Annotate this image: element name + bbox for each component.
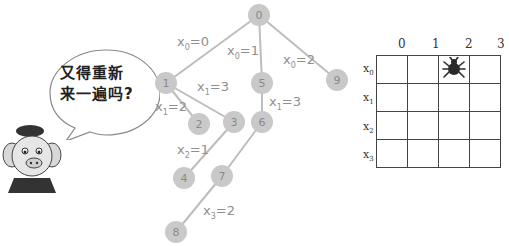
board-row: [377, 112, 501, 140]
svg-text:6: 6: [259, 116, 266, 129]
row-header: x2: [363, 120, 374, 135]
column-header: 0: [398, 37, 406, 51]
chess-board: [376, 55, 501, 168]
board-cell: [439, 56, 470, 84]
tree-node: 7: [211, 165, 233, 187]
edge-label: x0=0: [177, 34, 209, 52]
svg-text:0: 0: [256, 9, 263, 22]
board-cell: [408, 84, 439, 112]
edge-label: x0=1: [227, 43, 259, 61]
board-cell: [408, 56, 439, 84]
edge-label: x1=2: [155, 99, 187, 117]
row-header: x1: [363, 91, 374, 106]
tree-node: 5: [251, 72, 273, 94]
edge-label: x2=1: [177, 142, 209, 160]
board-cell: [377, 140, 408, 168]
tree-node: 6: [251, 111, 273, 133]
svg-text:9: 9: [334, 74, 341, 87]
board-cell: [470, 112, 501, 140]
board-cell: [377, 84, 408, 112]
tree-node: 1: [155, 72, 177, 94]
edge-label: x1=3: [269, 94, 301, 112]
board-cell: [470, 140, 501, 168]
svg-text:4: 4: [181, 172, 188, 185]
board-cell: [377, 56, 408, 84]
svg-text:5: 5: [259, 77, 266, 90]
board-row: [377, 140, 501, 168]
edge-label: x3=2: [203, 203, 235, 221]
board-cell: [408, 140, 439, 168]
svg-text:7: 7: [219, 170, 226, 183]
svg-text:8: 8: [173, 226, 180, 239]
svg-text:1: 1: [163, 77, 170, 90]
edge-label: x0=2: [283, 52, 315, 70]
board-cell: [377, 112, 408, 140]
spider-icon: [442, 57, 466, 79]
row-header: x3: [363, 148, 374, 163]
board-cell: [408, 112, 439, 140]
board-cell: [439, 140, 470, 168]
column-header: 2: [465, 37, 473, 51]
edge-label: x1=3: [197, 79, 229, 97]
board-cell: [470, 84, 501, 112]
board-row: [377, 56, 501, 84]
column-header: 3: [497, 37, 505, 51]
tree-node: 9: [326, 69, 348, 91]
tree-node: 0: [248, 4, 270, 26]
row-header: x0: [363, 62, 374, 77]
board-cell: [470, 56, 501, 84]
board-row: [377, 84, 501, 112]
tree-node: 2: [188, 113, 210, 135]
tree-edge: [259, 15, 337, 80]
tree-node: 8: [165, 221, 187, 243]
tree-node: 3: [223, 111, 245, 133]
svg-text:2: 2: [196, 118, 203, 131]
svg-text:3: 3: [231, 116, 238, 129]
board-cell: [439, 84, 470, 112]
column-header: 1: [432, 37, 440, 51]
tree-node: 4: [173, 167, 195, 189]
board-cell: [439, 112, 470, 140]
